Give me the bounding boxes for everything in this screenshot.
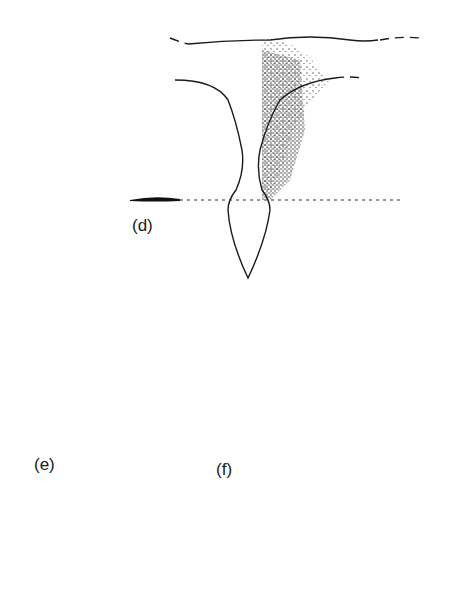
panel-label-d: (d) — [132, 216, 153, 236]
figure-canvas: (d) (e) (f) — [0, 0, 467, 594]
diagram-drawing — [0, 0, 467, 594]
panel-label-f: (f) — [216, 460, 232, 480]
panel-label-e: (e) — [34, 455, 55, 475]
panel-d — [130, 37, 420, 278]
